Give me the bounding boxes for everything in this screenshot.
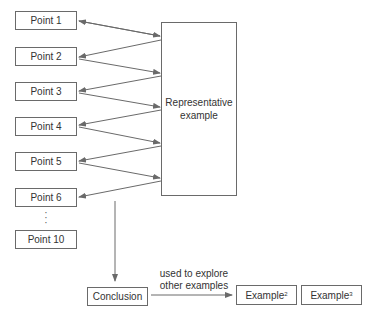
point-5-box: Point 5 bbox=[15, 152, 77, 171]
point-1-box: Point 1 bbox=[15, 11, 77, 30]
point-3-box: Point 3 bbox=[15, 82, 77, 101]
point-6-label: Point 6 bbox=[30, 192, 61, 203]
point-4-label: Point 4 bbox=[30, 121, 61, 132]
arrow-label-line2: other examples bbox=[148, 280, 240, 292]
representative-line1: Representative bbox=[165, 96, 232, 109]
example-2-label: Example bbox=[245, 290, 284, 301]
point-6-box: Point 6 bbox=[15, 188, 77, 207]
ellipsis: ··· bbox=[40, 210, 52, 225]
example-3-label: Example bbox=[310, 290, 349, 301]
point-2-label: Point 2 bbox=[30, 51, 61, 62]
point-10-label: Point 10 bbox=[28, 234, 65, 245]
example-3-box: Example3 bbox=[301, 285, 362, 305]
representative-example-box: Representative example bbox=[161, 22, 237, 196]
arrow-label: used to explore other examples bbox=[148, 268, 240, 292]
conclusion-box: Conclusion bbox=[87, 287, 148, 306]
conclusion-label: Conclusion bbox=[93, 291, 142, 302]
representative-line2: example bbox=[180, 109, 218, 122]
point-4-box: Point 4 bbox=[15, 117, 77, 136]
example-2-box: Example2 bbox=[236, 285, 297, 305]
point-5-label: Point 5 bbox=[30, 156, 61, 167]
example-2-superscript: 2 bbox=[284, 291, 287, 297]
arrow-label-line1: used to explore bbox=[148, 268, 240, 280]
point-10-box: Point 10 bbox=[15, 230, 77, 249]
point-3-label: Point 3 bbox=[30, 86, 61, 97]
point-2-box: Point 2 bbox=[15, 47, 77, 66]
point-1-label: Point 1 bbox=[30, 15, 61, 26]
example-3-superscript: 3 bbox=[349, 291, 352, 297]
